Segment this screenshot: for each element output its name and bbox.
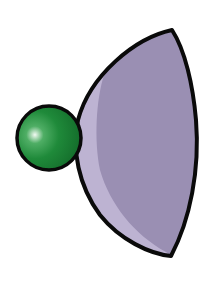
dome-sphere-icon xyxy=(0,0,217,284)
illustration-canvas xyxy=(0,0,217,284)
green-sphere xyxy=(17,106,81,170)
